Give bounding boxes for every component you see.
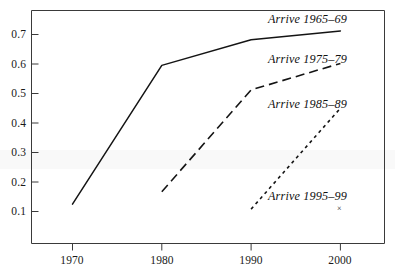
series-label-1995-99: Arrive 1995–99 [268,189,347,204]
plot-canvas [0,0,395,271]
series-line-1975-79 [162,63,341,191]
y-tick-label-0.4: 0.4 [0,117,26,129]
y-tick-label-0.5: 0.5 [0,87,26,99]
series-label-1985-89: Arrive 1985–89 [268,97,347,112]
y-axis-ticks [32,35,39,212]
line-chart: 0.7 0.6 0.5 0.4 0.3 0.2 0.1 1970 1980 19… [0,0,395,271]
x-tick-label-1970: 1970 [60,254,83,266]
y-tick-label-0.3: 0.3 [0,146,26,158]
x-tick-label-1990: 1990 [239,254,262,266]
series-label-1975-79: Arrive 1975–79 [268,52,347,67]
x-axis-ticks [73,244,341,251]
y-tick-label-0.6: 0.6 [0,58,26,70]
y-tick-label-0.2: 0.2 [0,176,26,188]
plot-frame [32,11,385,244]
x-tick-label-2000: 2000 [328,254,351,266]
series-label-1965-69: Arrive 1965–69 [268,12,347,27]
y-tick-label-0.7: 0.7 [0,28,26,40]
x-tick-label-1980: 1980 [150,254,173,266]
series-marker-1995-99: × [337,205,342,213]
y-tick-label-0.1: 0.1 [0,205,26,217]
